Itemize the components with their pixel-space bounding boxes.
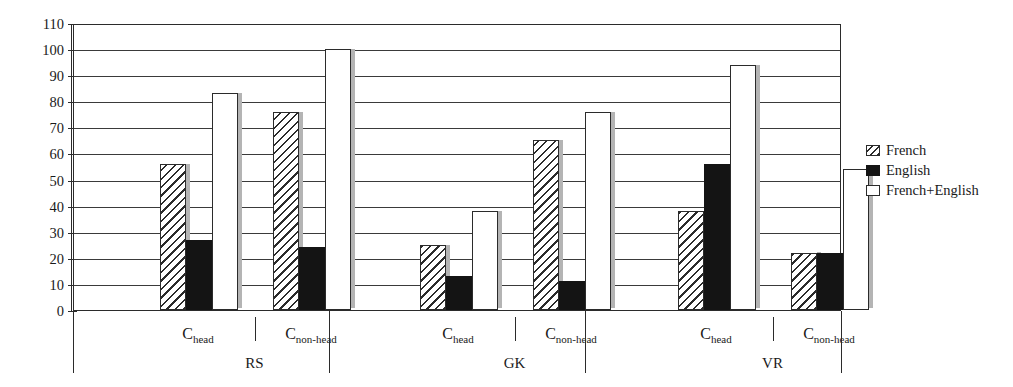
- legend: FrenchEnglishFrench+English: [866, 140, 979, 200]
- bar-french: [160, 164, 186, 310]
- y-axis-tick-label: 100: [42, 43, 64, 58]
- y-axis-tick-label: 40: [50, 199, 65, 214]
- bar-english: [446, 276, 472, 310]
- y-axis-labels: 0102030405060708090100110: [0, 24, 64, 311]
- legend-swatch-both-icon: [866, 185, 880, 196]
- legend-item: English: [866, 160, 979, 180]
- bar-both: [472, 211, 498, 310]
- bar-english: [817, 253, 843, 310]
- category-separator: [515, 317, 516, 341]
- y-axis-tick-label: 20: [50, 252, 65, 267]
- group-label: GK: [504, 356, 526, 371]
- bar-cluster: [267, 24, 357, 310]
- group-separator: [585, 311, 586, 373]
- y-axis-tick-label: 30: [50, 225, 65, 240]
- bar-both: [325, 49, 351, 310]
- bar-french: [533, 140, 559, 310]
- y-axis-tick-label: 50: [50, 173, 65, 188]
- bar-english: [299, 247, 325, 310]
- bar-cluster: [414, 24, 504, 310]
- bar-cluster: [154, 24, 244, 310]
- y-axis: [71, 24, 72, 311]
- bar-english: [559, 281, 585, 310]
- category-label: Chead: [182, 326, 213, 345]
- legend-item: French: [866, 140, 979, 160]
- bar-french: [791, 253, 817, 310]
- category-label: Chead: [700, 326, 731, 345]
- group-label: RS: [245, 356, 263, 371]
- y-axis-tick-label: 70: [50, 121, 65, 136]
- legend-label: English: [886, 160, 930, 180]
- bar-cluster: [672, 24, 762, 310]
- bar-both: [212, 93, 238, 310]
- bar-cluster: [785, 24, 875, 310]
- category-label: Chead: [442, 326, 473, 345]
- category-separator: [255, 317, 256, 341]
- legend-swatch-english-icon: [866, 165, 880, 176]
- bar-cluster: [527, 24, 617, 310]
- bar-groups: [74, 24, 840, 310]
- legend-label: French: [886, 140, 926, 160]
- group-label: VR: [762, 356, 783, 371]
- group-separator: [841, 311, 842, 373]
- group-separator: [73, 311, 74, 373]
- category-label: Cnon-head: [803, 326, 855, 345]
- plot-area: [73, 24, 841, 311]
- y-axis-tick-label: 10: [50, 278, 65, 293]
- bar-french: [273, 112, 299, 310]
- bar-french: [420, 245, 446, 310]
- bar-english: [186, 240, 212, 310]
- y-axis-tick-label: 110: [43, 17, 64, 32]
- legend-label: French+English: [886, 180, 979, 200]
- category-label: Cnon-head: [545, 326, 597, 345]
- bar-both: [730, 65, 756, 310]
- y-axis-tick-label: 90: [50, 69, 65, 84]
- y-axis-tick-label: 0: [57, 304, 64, 319]
- legend-swatch-french-icon: [866, 145, 880, 156]
- legend-item: French+English: [866, 180, 979, 200]
- category-separator: [773, 317, 774, 341]
- y-axis-tick-label: 60: [50, 147, 65, 162]
- bar-english: [704, 164, 730, 310]
- bar-both: [585, 112, 611, 310]
- y-axis-tick-label: 80: [50, 95, 65, 110]
- bar-chart: 0102030405060708090100110 CheadCnon-head…: [0, 0, 1013, 387]
- group-separator: [329, 311, 330, 373]
- bar-french: [678, 211, 704, 310]
